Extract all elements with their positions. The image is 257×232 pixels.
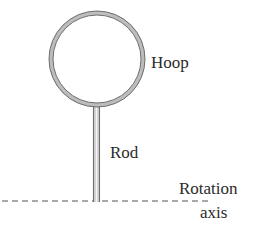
hoop-label: Hoop	[151, 54, 189, 71]
axis-label: axis	[200, 204, 227, 221]
hoop-rod-diagram: Hoop Rod Rotation axis	[0, 0, 257, 232]
figure-caption-clipped	[6, 228, 256, 232]
rotation-label: Rotation	[179, 180, 238, 197]
rod-label: Rod	[110, 144, 138, 161]
rod	[94, 106, 100, 202]
hoop	[49, 11, 145, 107]
